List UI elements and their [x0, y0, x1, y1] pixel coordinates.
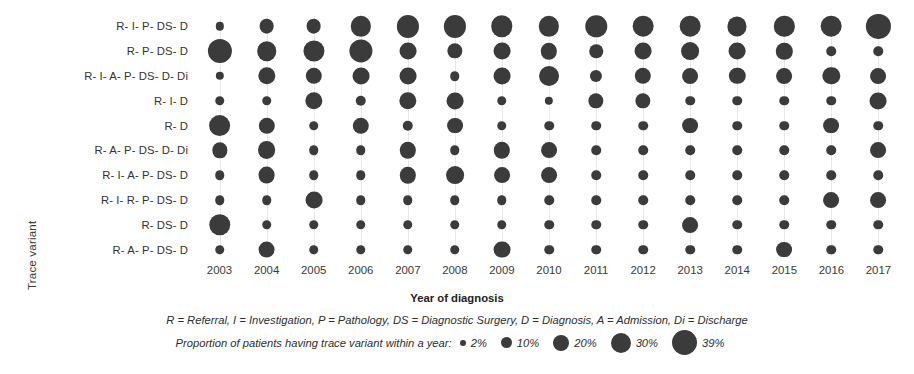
- bubble-point: [638, 146, 648, 156]
- bubble-point: [539, 66, 559, 86]
- bubble-point: [400, 167, 416, 183]
- bubble-point: [446, 92, 463, 109]
- bubble-point: [212, 143, 227, 158]
- size-legend-item: 39%: [672, 330, 724, 355]
- bubble-point: [682, 68, 698, 84]
- bubble-point: [397, 15, 419, 37]
- bubble-point: [544, 195, 554, 205]
- bubble-point: [774, 16, 794, 36]
- size-legend-item: 30%: [611, 333, 658, 353]
- bubble-point: [733, 96, 743, 106]
- size-legend-value: 20%: [574, 337, 596, 349]
- bubble-point: [399, 43, 416, 60]
- x-axis-labels: 2003200420052006200720082009201020112012…: [196, 264, 902, 286]
- bubble-point: [591, 245, 601, 255]
- bubble-point: [352, 68, 369, 85]
- bubble-point: [780, 195, 790, 205]
- bubble-point: [827, 46, 837, 56]
- bubble-point: [309, 220, 319, 230]
- bubble-point: [305, 68, 321, 84]
- bubble-point: [591, 121, 601, 131]
- bubble-point: [494, 142, 510, 158]
- size-legend-value: 39%: [702, 337, 724, 349]
- size-legend-dot: [553, 335, 569, 351]
- bubble-point: [733, 121, 743, 131]
- bubble-point: [497, 220, 507, 230]
- bubble-point: [544, 220, 554, 230]
- bubble-point: [870, 92, 887, 109]
- bubble-point: [874, 220, 884, 230]
- y-axis-tick-label: R- I- A- P- DS- D- Di: [84, 70, 188, 82]
- bubble-point: [871, 192, 887, 208]
- x-axis-tick-label: 2014: [725, 264, 750, 276]
- bubble-point: [780, 121, 790, 131]
- bubble-point: [450, 195, 460, 205]
- bubble-point: [874, 245, 884, 255]
- bubble-point: [353, 117, 369, 133]
- bubble-point: [309, 121, 319, 131]
- y-axis-labels: R- I- P- DS- DR- P- DS- DR- I- A- P- DS-…: [40, 14, 192, 262]
- bubble-point: [588, 93, 603, 108]
- bubble-point: [733, 220, 743, 230]
- bubble-point: [262, 195, 272, 205]
- bubble-point: [685, 195, 695, 205]
- bubble-point: [733, 170, 743, 180]
- bubble-point: [544, 245, 554, 255]
- bubble-point: [351, 16, 371, 36]
- bubble-point: [638, 245, 648, 255]
- x-axis-tick-label: 2009: [489, 264, 514, 276]
- x-axis-tick-label: 2003: [207, 264, 232, 276]
- y-axis-tick-label: R- D: [164, 120, 188, 132]
- bubble-point: [638, 195, 648, 205]
- bubble-point: [259, 19, 274, 34]
- size-legend-item: 10%: [501, 337, 539, 349]
- bubble-point: [309, 146, 319, 156]
- bubble-point: [685, 170, 695, 180]
- bubble-point: [258, 67, 275, 84]
- bubble-point: [493, 43, 510, 60]
- bubble-point: [776, 43, 792, 59]
- size-legend-dot: [501, 337, 512, 348]
- bubble-point: [450, 245, 460, 255]
- bubble-point: [209, 214, 230, 235]
- bubble-point: [258, 117, 274, 133]
- bubble-point: [638, 121, 648, 131]
- y-axis-tick-label: R- I- R- P- DS- D: [101, 194, 188, 206]
- size-legend-value: 10%: [517, 337, 539, 349]
- bubble-point: [215, 245, 225, 255]
- bubble-point: [403, 220, 413, 230]
- x-axis-tick-label: 2015: [772, 264, 797, 276]
- bubble-point: [215, 22, 223, 30]
- plot-area: R- I- P- DS- DR- P- DS- DR- I- A- P- DS-…: [40, 14, 902, 262]
- size-legend-dot: [611, 333, 631, 353]
- bubble-point: [258, 241, 275, 258]
- y-axis-tick-label: R- I- A- P- DS- D: [102, 169, 188, 181]
- x-axis-tick-label: 2010: [536, 264, 561, 276]
- bubble-point: [356, 195, 366, 205]
- bubble-point: [874, 46, 884, 56]
- bubble-point: [733, 245, 743, 255]
- x-axis-tick-label: 2016: [819, 264, 844, 276]
- bubble-point: [823, 118, 839, 134]
- bubble-point: [729, 68, 745, 84]
- bubble-point: [450, 146, 460, 156]
- bubble-point: [729, 43, 746, 60]
- bubble-chart-figure: Trace variant R- I- P- DS- DR- P- DS- DR…: [0, 0, 914, 374]
- bubble-point: [780, 170, 790, 180]
- x-axis-tick-label: 2011: [584, 264, 609, 276]
- bubble-point: [309, 245, 319, 255]
- bubble-point: [258, 141, 276, 159]
- bubble-point: [258, 167, 275, 184]
- bubble-point: [257, 41, 277, 61]
- size-legend: Proportion of patients having trace vari…: [0, 330, 914, 355]
- bubble-point: [827, 96, 837, 106]
- bubble-point: [215, 96, 225, 106]
- bubble-point: [733, 146, 743, 156]
- x-axis-tick-label: 2004: [254, 264, 279, 276]
- bubble-point: [681, 42, 699, 60]
- bubble-point: [209, 115, 231, 137]
- x-axis-tick-label: 2013: [678, 264, 703, 276]
- bubble-point: [585, 16, 606, 37]
- y-axis-tick-label: R- A- P- DS- D- Di: [95, 144, 188, 156]
- bubble-point: [780, 146, 790, 156]
